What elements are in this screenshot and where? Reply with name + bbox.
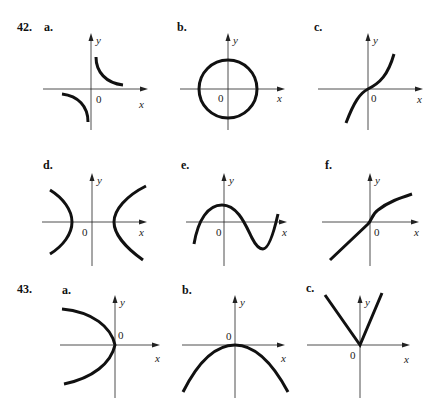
origin-label: 0 xyxy=(374,226,380,238)
graph-43a: y 0 x xyxy=(55,292,170,409)
curve-parabola-left xyxy=(62,309,115,384)
origin-label: 0 xyxy=(82,226,88,238)
graph-42b: y 0 x xyxy=(180,30,300,135)
x-axis-label: x xyxy=(276,92,282,104)
x-axis-label: x xyxy=(280,352,286,364)
origin-label: 0 xyxy=(371,92,377,104)
y-axis-label: y xyxy=(372,34,378,46)
problem-number-42: 42. xyxy=(17,20,32,35)
x-axis-label: x xyxy=(138,98,144,110)
y-axis-label: y xyxy=(232,34,238,46)
x-axis-label: x xyxy=(413,226,419,238)
curve-absolute-value xyxy=(325,293,382,345)
graph-42d: y 0 x xyxy=(38,170,153,270)
graph-42e: y 0 x xyxy=(182,170,297,270)
y-axis-label: y xyxy=(119,296,125,308)
graph-42c: y 0 x xyxy=(314,30,434,135)
origin-label: 0 xyxy=(218,92,224,104)
curve-wave xyxy=(194,205,278,249)
origin-label: 0 xyxy=(96,93,102,105)
graph-42a: y 0 x xyxy=(40,30,150,135)
x-axis-label: x xyxy=(416,93,422,105)
graph-43c: y 0 x xyxy=(305,292,420,409)
x-axis-label: x xyxy=(154,352,160,364)
curve-parabola-down xyxy=(183,345,288,392)
origin-label: 0 xyxy=(118,329,124,341)
x-axis-label: x xyxy=(403,353,409,365)
y-axis-label: y xyxy=(239,296,245,308)
y-axis-label: y xyxy=(374,174,380,186)
curve-branch-upper xyxy=(96,57,123,85)
graph-43b: y 0 x xyxy=(180,292,295,409)
curve-increasing xyxy=(330,194,412,260)
curve-cubic xyxy=(346,54,394,123)
y-axis-label: y xyxy=(95,34,101,46)
y-axis-label: y xyxy=(228,174,234,186)
problem-number-43: 43. xyxy=(17,282,32,297)
origin-label: 0 xyxy=(226,330,232,342)
origin-label: 0 xyxy=(216,226,222,238)
x-axis-label: x xyxy=(281,226,287,238)
origin-label: 0 xyxy=(350,349,356,361)
y-axis-label: y xyxy=(96,174,102,186)
graph-42f: y 0 x xyxy=(322,170,444,270)
x-axis-label: x xyxy=(138,226,144,238)
curve-branch-lower xyxy=(62,94,88,122)
y-axis-label: y xyxy=(364,296,370,308)
